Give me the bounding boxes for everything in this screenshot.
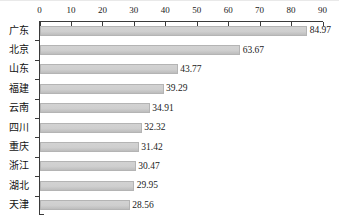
x-axis-tick-mark xyxy=(197,22,198,26)
y-axis-category-label: 山东 xyxy=(2,63,35,75)
bar xyxy=(40,142,139,152)
y-axis-tick-mark xyxy=(35,176,39,177)
y-axis-tick-mark xyxy=(35,40,39,41)
y-axis-tick-mark xyxy=(35,118,39,119)
x-axis-tick-label: 50 xyxy=(192,5,201,16)
bar-row: 重庆31.42 xyxy=(0,137,339,156)
bar-value-label: 43.77 xyxy=(180,64,201,75)
y-axis-category-label: 湖北 xyxy=(2,180,35,192)
bar xyxy=(40,84,164,94)
x-axis-tick-mark xyxy=(134,22,135,26)
bar-row: 山东43.77 xyxy=(0,60,339,79)
bar-row: 北京63.67 xyxy=(0,40,339,59)
x-axis-tick-label: 30 xyxy=(129,5,138,16)
x-axis-tick-mark xyxy=(165,22,166,26)
y-axis-category-label: 北京 xyxy=(2,44,35,56)
bar xyxy=(40,161,136,171)
bar-row: 四川32.32 xyxy=(0,118,339,137)
y-axis-category-label: 福建 xyxy=(2,83,35,95)
x-axis-tick-mark xyxy=(260,22,261,26)
bar-row: 云南34.91 xyxy=(0,99,339,118)
x-axis-tick-label: 70 xyxy=(255,5,264,16)
bar xyxy=(40,123,142,133)
x-axis-tick-labels: 0102030405060708090 xyxy=(0,5,339,17)
bar xyxy=(40,64,178,74)
bar-value-label: 32.32 xyxy=(144,122,165,133)
y-axis-category-label: 云南 xyxy=(2,102,35,114)
x-axis-tick-label: 10 xyxy=(66,5,75,16)
y-axis-category-label: 广东 xyxy=(2,25,35,37)
x-axis-tick-mark xyxy=(40,22,41,26)
plot-area: 广东84.97北京63.67山东43.77福建39.29云南34.91四川32.… xyxy=(0,21,339,215)
x-axis-tick-mark xyxy=(291,22,292,26)
bar xyxy=(40,181,134,191)
bar-value-label: 30.47 xyxy=(138,161,159,172)
bar-value-label: 84.97 xyxy=(310,25,331,36)
bar-row: 福建39.29 xyxy=(0,79,339,98)
bar-chart: 0102030405060708090 广东84.97北京63.67山东43.7… xyxy=(0,0,339,222)
y-axis-tick-mark xyxy=(35,60,39,61)
y-axis-tick-mark xyxy=(35,99,39,100)
bar-row: 湖北29.95 xyxy=(0,176,339,195)
x-axis-tick-mark xyxy=(102,22,103,26)
page-top-rule xyxy=(0,0,339,1)
bar-value-label: 34.91 xyxy=(152,103,173,114)
x-axis-tick-mark xyxy=(71,22,72,26)
x-axis-tick-mark xyxy=(323,22,324,26)
x-axis-tick-label: 80 xyxy=(287,5,296,16)
bar-value-label: 31.42 xyxy=(141,142,162,153)
x-axis-tick-label: 20 xyxy=(98,5,107,16)
bar-value-label: 39.29 xyxy=(166,83,187,94)
y-axis-category-label: 重庆 xyxy=(2,141,35,153)
y-axis-category-label: 四川 xyxy=(2,122,35,134)
y-axis-category-label: 天津 xyxy=(2,199,35,211)
bar-value-label: 29.95 xyxy=(137,180,158,191)
x-axis-tick-label: 0 xyxy=(37,5,42,16)
bar xyxy=(40,103,150,113)
bar xyxy=(40,200,130,210)
x-axis-tick-mark xyxy=(228,22,229,26)
x-axis-tick-label: 60 xyxy=(224,5,233,16)
bar-value-label: 63.67 xyxy=(243,45,264,56)
bar xyxy=(40,26,307,36)
bar-row: 广东84.97 xyxy=(0,21,339,40)
y-axis-category-label: 浙江 xyxy=(2,160,35,172)
x-axis-tick-label: 40 xyxy=(161,5,170,16)
y-axis-tick-mark xyxy=(35,157,39,158)
bar xyxy=(40,45,240,55)
bar-row: 浙江30.47 xyxy=(0,157,339,176)
y-axis-tick-mark xyxy=(35,79,39,80)
bar-row: 天津28.56 xyxy=(0,196,339,215)
x-axis-tick-label: 90 xyxy=(318,5,327,16)
y-axis-tick-mark xyxy=(35,196,39,197)
bar-value-label: 28.56 xyxy=(132,200,153,211)
y-axis-tick-mark xyxy=(35,137,39,138)
